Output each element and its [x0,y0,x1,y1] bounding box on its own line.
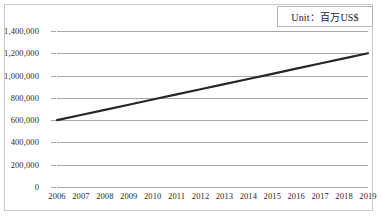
x-axis-tick-label: 2015 [264,191,281,201]
y-axis-tick-mark [51,120,56,121]
y-axis-tick-mark [51,187,56,188]
x-axis-tick-label: 2007 [72,191,89,201]
plot-area: 0200,000400,000600,000800,0001,000,0001,… [57,31,368,187]
x-axis-tick-label: 2019 [359,191,376,201]
y-axis-tick-label: 400,000 [11,137,39,147]
gridline [57,187,368,188]
x-axis-tick-label: 2010 [144,191,161,201]
y-axis-tick-label: 1,000,000 [4,71,39,81]
x-axis-tick-label: 2016 [288,191,305,201]
series-line [57,53,368,120]
y-axis-tick-label: 600,000 [11,115,39,125]
data-series-layer [57,31,368,187]
y-axis-tick-label: 1,400,000 [4,26,39,36]
x-axis-tick-label: 2011 [168,191,185,201]
x-axis-tick-label: 2018 [335,191,352,201]
x-axis-tick-label: 2012 [192,191,209,201]
y-axis-tick-mark [51,142,56,143]
x-axis-tick-label: 2017 [311,191,328,201]
x-axis-tick-label: 2006 [48,191,65,201]
y-axis-tick-mark [51,165,56,166]
legend-unit-box: Unit：百万US$ [277,6,373,27]
y-axis-tick-mark [51,31,56,32]
y-axis-tick-label: 1,200,000 [4,48,39,58]
y-axis-tick-mark [51,53,56,54]
x-axis-tick-label: 2013 [216,191,233,201]
y-axis-tick-label: 0 [35,182,39,192]
x-axis-tick-label: 2009 [120,191,137,201]
legend-unit-label: Unit：百万US$ [291,9,359,24]
x-axis-tick-label: 2008 [96,191,113,201]
y-axis-tick-mark [51,76,56,77]
y-axis-tick-label: 800,000 [11,93,39,103]
y-axis-tick-label: 200,000 [11,160,39,170]
x-axis-tick-label: 2014 [240,191,257,201]
chart-screenshot: Unit：百万US$ 0200,000400,000600,000800,000… [0,0,382,216]
y-axis-tick-mark [51,98,56,99]
